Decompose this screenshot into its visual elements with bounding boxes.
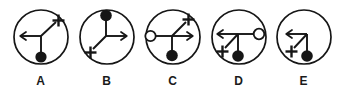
option-a-label: A bbox=[7, 74, 74, 88]
filled-dot-icon bbox=[232, 50, 244, 62]
option-d[interactable]: D bbox=[205, 0, 272, 97]
option-b-diagram bbox=[73, 4, 140, 74]
option-d-diagram bbox=[205, 4, 272, 74]
option-d-diagonal-branch bbox=[225, 34, 238, 48]
filled-dot-icon bbox=[166, 50, 178, 62]
option-e-diagram bbox=[270, 4, 337, 74]
filled-dot-icon bbox=[100, 10, 112, 22]
filled-dot-icon bbox=[35, 51, 46, 62]
option-b-label: B bbox=[73, 74, 140, 88]
open-circle-icon bbox=[145, 31, 155, 41]
option-a-diagram bbox=[7, 4, 74, 74]
option-a[interactable]: A bbox=[7, 0, 74, 97]
option-e-diagonal-branch bbox=[294, 34, 307, 48]
option-c-label: C bbox=[139, 74, 206, 88]
option-d-label: D bbox=[205, 74, 272, 88]
option-c-diagram bbox=[139, 4, 206, 74]
option-b-diagonal-branch bbox=[93, 36, 106, 49]
option-c[interactable]: C bbox=[139, 0, 206, 97]
answer-option-row: A B bbox=[0, 0, 339, 97]
option-e[interactable]: E bbox=[270, 0, 337, 97]
option-b[interactable]: B bbox=[73, 0, 140, 97]
option-a-diagonal-branch bbox=[41, 22, 56, 36]
filled-dot-icon bbox=[301, 50, 313, 62]
open-circle-icon bbox=[254, 29, 265, 40]
option-c-diagonal-branch bbox=[172, 22, 186, 36]
option-e-label: E bbox=[270, 74, 337, 88]
